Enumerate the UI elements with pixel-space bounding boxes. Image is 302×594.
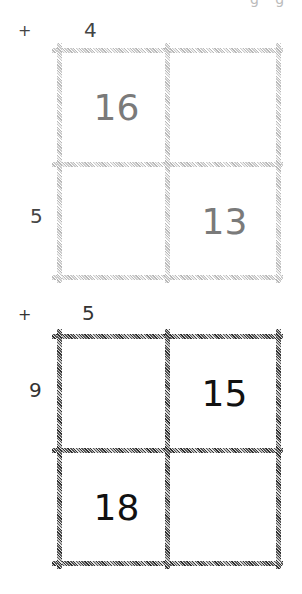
cell-r2-c1[interactable]	[62, 167, 171, 275]
cell-r1-c1[interactable]	[62, 339, 171, 448]
cell-r1-c1[interactable]: 16	[62, 53, 171, 162]
operator-sign: +	[18, 307, 31, 323]
cell-r1-c2[interactable]	[170, 53, 279, 162]
addition-grid-puzzle-1: + 4 5 16 13	[0, 0, 302, 290]
cell-r1-c2[interactable]: 15	[170, 339, 279, 448]
addition-grid-puzzle-2: + 5 9 15 18	[0, 290, 302, 594]
column-label-1: 5	[82, 303, 95, 323]
grid: 15 18	[57, 334, 278, 563]
row-label-1: 9	[29, 380, 42, 400]
column-label-1: 4	[84, 20, 97, 40]
cell-r2-c2[interactable]: 13	[170, 167, 279, 275]
row-label-2: 5	[30, 206, 43, 226]
operator-sign: +	[18, 23, 31, 39]
grid: 16 13	[57, 48, 278, 277]
cell-r2-c2[interactable]	[170, 453, 279, 561]
cell-r2-c1[interactable]: 18	[62, 453, 171, 561]
